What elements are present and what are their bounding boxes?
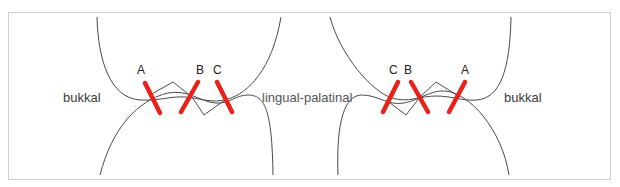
right-upper-tooth-outline [330, 17, 511, 100]
left-label-c: C [213, 63, 222, 77]
left-contact-marks [145, 82, 232, 113]
left-bukkal-label: bukkal [63, 90, 101, 105]
right-label-a: A [461, 63, 469, 77]
lingual-palatinal-label: lingual-palatinal [262, 90, 352, 105]
left-upper-tooth-outline [97, 17, 281, 101]
right-label-c: C [389, 63, 398, 77]
left-contact-mark-a [145, 83, 160, 113]
left-label-b: B [196, 63, 204, 77]
right-bukkal-label: bukkal [504, 90, 542, 105]
left-label-a: A [137, 63, 145, 77]
left-contact-mark-c [217, 82, 232, 112]
right-label-b: B [404, 63, 412, 77]
